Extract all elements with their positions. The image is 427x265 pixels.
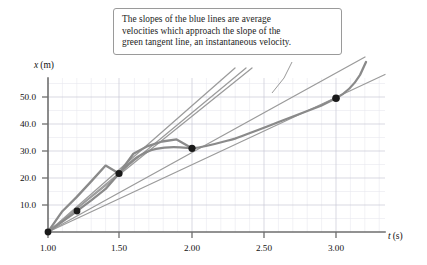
data-point-t-1-50 — [115, 170, 122, 177]
y-tick-label-50: 50.0 — [6, 92, 36, 102]
data-point-t-2-00 — [188, 145, 195, 152]
x-axis-variable: t — [388, 231, 391, 241]
y-tick-label-30: 30.0 — [6, 146, 36, 156]
callout-line-1: The slopes of the blue lines are average — [122, 14, 334, 26]
callout-line-3: green tangent line, an instantaneous vel… — [122, 37, 334, 49]
data-point-t-3-00 — [332, 95, 340, 103]
x-tick-label-2-00: 2.00 — [172, 243, 212, 253]
callout-box: The slopes of the blue lines are average… — [113, 8, 342, 55]
data-point-t-1-20 — [74, 208, 81, 215]
x-axis-title: t(s) — [388, 231, 403, 241]
y-tick-label-10: 10.0 — [6, 200, 36, 210]
x-tick-label-1-50: 1.50 — [99, 243, 139, 253]
x-axis-unit: (s) — [393, 231, 403, 241]
x-tick-label-1-00: 1.00 — [28, 243, 68, 253]
y-tick-label-20: 20.0 — [6, 173, 36, 183]
y-axis-unit: (m) — [40, 60, 54, 70]
y-axis-title: x(m) — [34, 60, 54, 70]
x-tick-label-2-50: 2.50 — [244, 243, 284, 253]
y-axis-variable: x — [34, 60, 38, 70]
y-tick-label-40: 40.0 — [6, 119, 36, 129]
callout-line-2: velocities which approach the slope of t… — [122, 26, 334, 38]
data-point-t-1-00 — [45, 229, 52, 236]
x-tick-label-3-00: 3.00 — [316, 243, 356, 253]
